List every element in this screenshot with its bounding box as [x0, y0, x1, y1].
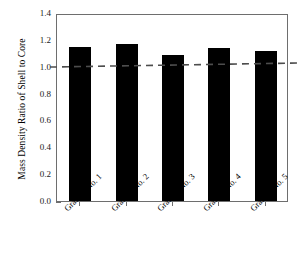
bar — [255, 51, 277, 201]
y-tick-label: 0.8 — [25, 90, 51, 99]
plot-area — [56, 14, 288, 202]
y-tick-label: 0.6 — [25, 116, 51, 125]
bar-chart-figure: Mass Density Ratio of Shell to Core 0.00… — [0, 0, 299, 266]
bar — [69, 47, 91, 201]
y-tick-label: 1.0 — [25, 63, 51, 72]
y-tick-label: 0.2 — [25, 170, 51, 179]
y-tick-label: 1.2 — [25, 36, 51, 45]
y-tick-label: 0.0 — [25, 197, 51, 206]
y-tick-label: 1.4 — [25, 9, 51, 18]
y-tick-mark — [56, 202, 61, 203]
y-tick-label: 0.4 — [25, 143, 51, 152]
bar — [116, 44, 138, 201]
